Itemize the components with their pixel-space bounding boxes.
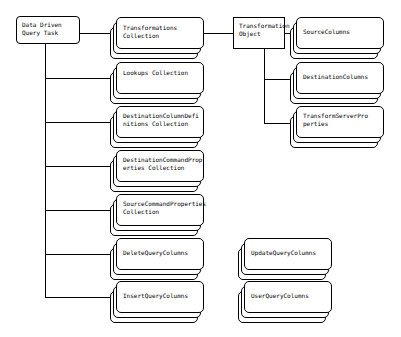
node-user-query-columns[interactable]: UserQueryColumns [238,281,332,323]
node-update-query-columns[interactable]: UpdateQueryColumns [238,238,332,280]
connector-transformations-to-transformation-object [200,33,233,34]
connector-trunk-to-destcmdprops [45,166,116,167]
diagram-canvas: Data Driven Query Task Transformation Ob… [0,0,401,337]
node-lookups-collection[interactable]: Lookups Collection [110,62,204,104]
connector-transformation-trunk [264,49,265,123]
node-transformations-collection[interactable]: Transformations Collection [110,17,204,59]
node-label: DeleteQueryColumns [123,249,203,257]
node-destination-column-definitions-collection[interactable]: DestinationColumnDefi nitions Collection [110,106,204,148]
node-destination-command-properties-collection[interactable]: DestinationCommandProp erties Collection [110,150,204,192]
stack-layer-front [116,62,204,94]
node-label: DestinationCommandProp erties Collection [123,156,205,172]
node-label: DestinationColumns [303,73,383,81]
node-label: Transformations Collection [123,24,199,40]
node-label: SourceColumns [303,28,379,36]
node-insert-query-columns[interactable]: InsertQueryColumns [110,281,204,323]
node-label: UpdateQueryColumns [251,249,331,257]
node-label: SourceCommandProperties Collection [123,200,207,216]
node-source-command-properties-collection[interactable]: SourceCommandProperties Collection [110,194,204,236]
node-label: Lookups Collection [123,69,199,77]
node-destination-columns[interactable]: DestinationColumns [290,62,384,104]
connector-trunk-to-deletequerycolumns [45,254,116,255]
node-source-columns[interactable]: SourceColumns [290,17,384,59]
node-label: TransformServerPro perties [303,112,381,128]
connector-trunk-to-lookups [45,78,116,79]
node-label: UserQueryColumns [251,292,331,300]
node-transform-server-properties[interactable]: TransformServerPro perties [290,106,384,148]
node-label: DestinationColumnDefi nitions Collection [123,112,203,128]
connector-trunk-to-insertquerycolumns [45,297,116,298]
connector-task-trunk [45,44,46,298]
connector-trunk-to-srccmdprops [45,210,116,211]
node-data-driven-query-task[interactable]: Data Driven Query Task [16,16,80,44]
connector-trunk-to-destcoldefs [45,122,116,123]
node-transformation-object[interactable]: Transformation Object [233,17,285,49]
node-delete-query-columns[interactable]: DeleteQueryColumns [110,238,204,280]
node-label: InsertQueryColumns [123,292,203,300]
